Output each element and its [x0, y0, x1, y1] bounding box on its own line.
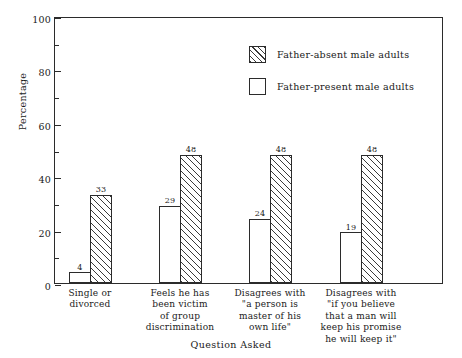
bar-father-absent: 48 — [270, 155, 292, 283]
x-category-label: Feels he has been victim of group discri… — [128, 288, 232, 334]
legend-label-father-absent: Father-absent male adults — [277, 49, 409, 60]
y-tick-label: 20 — [39, 227, 52, 238]
bar-value-label: 4 — [77, 264, 82, 272]
x-category-label: Disagrees with "if you believe that a ma… — [309, 288, 413, 345]
bar-father-absent: 33 — [90, 195, 112, 283]
bar-father-present: 19 — [340, 232, 362, 283]
legend-label-father-present: Father-present male adults — [277, 81, 414, 92]
y-tick-label: 100 — [32, 14, 51, 25]
bar-father-present: 29 — [159, 206, 181, 283]
bar-father-present: 4 — [69, 272, 91, 283]
bar-value-label: 48 — [186, 146, 197, 154]
bar-group: 2948 — [159, 18, 203, 283]
bar-father-absent: 48 — [361, 155, 383, 283]
bar-value-label: 48 — [276, 146, 287, 154]
legend-swatch-hatched-icon — [249, 46, 266, 63]
bar-value-label: 19 — [346, 224, 357, 232]
plot-area: 020406080100 433294824481948 Father-abse… — [54, 17, 443, 284]
y-tick-label: 40 — [39, 174, 52, 185]
bar-group: 433 — [69, 18, 113, 283]
x-axis-title: Question Asked — [0, 339, 462, 350]
legend-swatch-white-icon — [249, 78, 266, 95]
bar-chart: 020406080100 433294824481948 Father-abse… — [0, 0, 462, 358]
bar-value-label: 48 — [367, 146, 378, 154]
y-axis-title: Percentage — [17, 42, 28, 162]
y-tick-label: 60 — [39, 120, 52, 131]
x-category-label: Disagrees with "a person is master of hi… — [218, 288, 322, 334]
x-category-label: Single or divorced — [38, 288, 142, 311]
bar-value-label: 29 — [165, 197, 176, 205]
y-tick-major: 0 — [55, 285, 61, 286]
legend-item-father-present: Father-present male adults — [249, 78, 414, 95]
bar-value-label: 33 — [96, 186, 107, 194]
bar-father-present: 24 — [249, 219, 271, 283]
legend-item-father-absent: Father-absent male adults — [249, 46, 409, 63]
y-tick-label: 80 — [39, 67, 52, 78]
bar-value-label: 24 — [255, 210, 266, 218]
bar-father-absent: 48 — [180, 155, 202, 283]
